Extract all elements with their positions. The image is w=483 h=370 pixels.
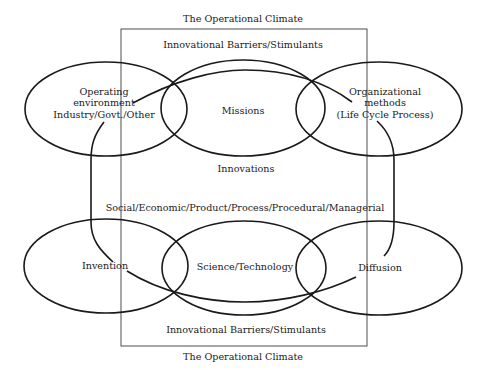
connector-left-loop — [91, 122, 113, 262]
label-innovation-types: Social/Economic/Product/Process/Procedur… — [106, 202, 385, 213]
operational-climate-frame — [121, 29, 367, 346]
label-invention: Invention — [82, 260, 128, 271]
label-operating-line1: Operating — [79, 86, 128, 97]
label-diffusion: Diffusion — [358, 262, 402, 273]
label-barriers-bottom: Innovational Barriers/Stimulants — [166, 324, 326, 335]
connector-right-loop — [377, 121, 394, 256]
label-organizational-line3: (Life Cycle Process) — [337, 109, 434, 120]
title-top-operational-climate: The Operational Climate — [183, 13, 303, 24]
connector-bottom-arc — [127, 271, 356, 302]
label-science-technology: Science/Technology — [197, 261, 294, 272]
label-organizational-line2: methods — [364, 97, 406, 108]
label-barriers-top: Innovational Barriers/Stimulants — [163, 39, 323, 50]
connector-top-arc — [133, 70, 352, 103]
label-missions: Missions — [222, 105, 265, 116]
label-operating-line3: Industry/Govt./Other — [53, 109, 155, 120]
label-operating-line2: environment — [73, 97, 135, 108]
operational-climate-diagram: The Operational Climate The Operational … — [0, 0, 483, 370]
label-innovations: Innovations — [218, 163, 275, 174]
label-organizational-line1: Organizational — [349, 86, 421, 97]
title-bottom-operational-climate: The Operational Climate — [183, 351, 303, 362]
